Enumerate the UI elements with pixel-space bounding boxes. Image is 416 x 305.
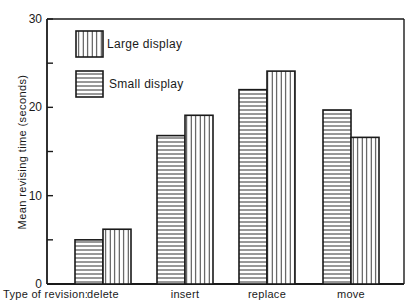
bar-group-move <box>323 110 379 284</box>
bar-large-display <box>103 229 131 284</box>
y-tick-label: 30 <box>29 12 43 26</box>
bar-large-display <box>351 137 379 284</box>
bar-small-display <box>157 136 185 284</box>
y-tick-label: 10 <box>29 189 43 203</box>
x-tick-label: replace <box>248 288 286 300</box>
legend-swatch-large-display <box>76 31 103 57</box>
legend: Large displaySmall display <box>76 31 184 97</box>
bar-group-replace <box>239 71 295 284</box>
bar-group-insert <box>157 115 213 284</box>
y-tick-label: 20 <box>29 100 43 114</box>
x-axis-title: Type of revision: <box>3 288 88 300</box>
legend-label: Large display <box>107 37 182 51</box>
x-tick-label: delete <box>87 288 119 300</box>
x-axis-labels: deleteinsertreplacemove <box>87 288 365 300</box>
legend-swatch-small-display <box>76 71 103 97</box>
bar-chart: 0102030 Large displaySmall display delet… <box>0 0 416 305</box>
bar-group-delete <box>75 229 131 284</box>
bar-small-display <box>239 90 267 284</box>
bar-small-display <box>75 240 103 284</box>
bar-large-display <box>267 71 295 284</box>
x-tick-label: insert <box>171 288 200 300</box>
y-axis-ticks: 0102030 <box>29 12 53 291</box>
y-axis-title: Mean revising time (seconds) <box>16 75 28 230</box>
bars <box>75 71 379 284</box>
legend-label: Small display <box>109 77 184 91</box>
bar-small-display <box>323 110 351 284</box>
x-tick-label: move <box>337 288 365 300</box>
bar-large-display <box>185 115 213 284</box>
